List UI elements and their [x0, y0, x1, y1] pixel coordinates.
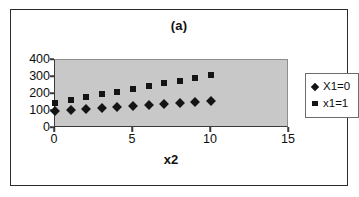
y-axis-tick-label: 400	[29, 53, 50, 66]
data-point	[68, 97, 74, 103]
y-axis-tick-label: 200	[29, 87, 50, 100]
y-axis-tick-label: 100	[29, 104, 50, 117]
data-point	[114, 89, 120, 95]
data-point	[97, 103, 107, 113]
data-point	[208, 72, 214, 78]
x-axis-tick-label: 15	[281, 133, 295, 146]
data-point	[146, 83, 152, 89]
y-axis-tick-label: 0	[43, 121, 50, 134]
plot-area	[54, 59, 288, 127]
data-point	[130, 86, 136, 92]
plot-points-layer	[55, 60, 287, 126]
y-axis-tick-label: 300	[29, 70, 50, 83]
data-point	[128, 101, 138, 111]
data-point	[206, 96, 216, 106]
x-axis-title: x2	[54, 152, 288, 167]
data-point	[66, 105, 76, 115]
diamond-marker-icon	[310, 84, 320, 90]
data-point	[175, 98, 185, 108]
data-point	[161, 80, 167, 86]
legend-item: x1=1	[310, 95, 355, 112]
chart-title: (a)	[11, 18, 347, 33]
x-axis-tick-label: 5	[129, 133, 136, 146]
y-axis-ticks: 0100200300400	[11, 59, 50, 127]
data-point	[177, 78, 183, 84]
legend-item: X1=0	[310, 78, 355, 95]
data-point	[83, 94, 89, 100]
data-point	[99, 91, 105, 97]
data-point	[50, 106, 60, 116]
x-axis-tick-label: 10	[203, 133, 217, 146]
data-point	[192, 75, 198, 81]
x-axis-ticks: 051015	[54, 127, 288, 149]
figure-frame: (a) 0100200300400 051015 x2 X1=0x1=1	[10, 9, 348, 186]
x-axis-tick-label: 0	[51, 133, 58, 146]
data-point	[112, 102, 122, 112]
data-point	[190, 97, 200, 107]
data-point	[144, 100, 154, 110]
data-point	[52, 100, 58, 106]
data-point	[81, 104, 91, 114]
data-point	[159, 99, 169, 109]
legend-item-label: X1=0	[323, 81, 350, 93]
chart-legend: X1=0x1=1	[305, 73, 359, 118]
square-marker-icon	[310, 101, 320, 107]
legend-item-label: x1=1	[323, 98, 348, 110]
